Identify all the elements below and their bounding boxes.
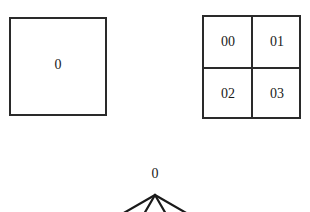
tree-edges <box>0 0 310 212</box>
